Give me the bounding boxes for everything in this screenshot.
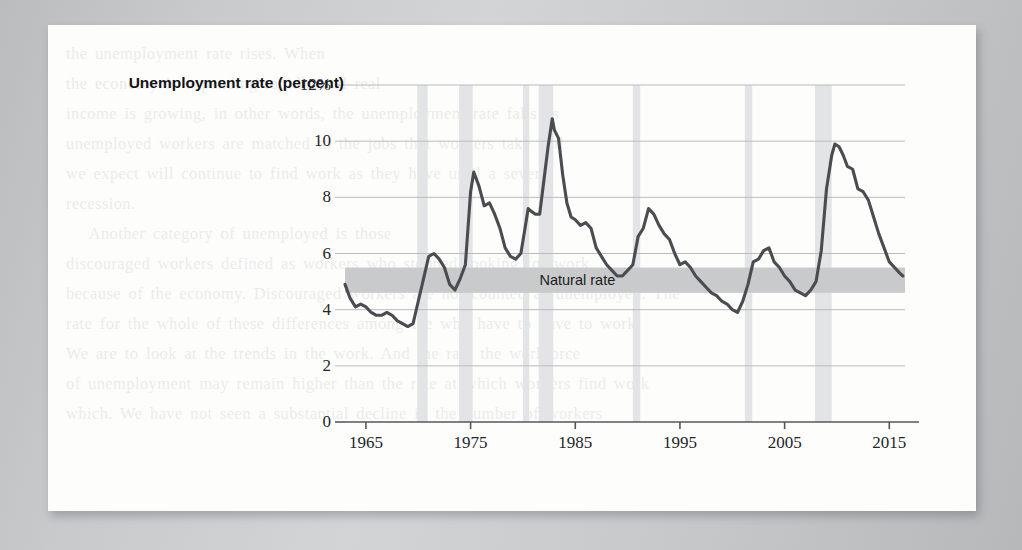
x-tick-label: 2005 <box>750 433 820 453</box>
x-tick-label: 2015 <box>854 433 924 453</box>
x-tick-label: 1975 <box>436 433 506 453</box>
y-tick-label: 10 <box>283 131 331 151</box>
x-tick-label: 1985 <box>540 433 610 453</box>
book-page-sheet: the unemployment rate rises. When the ec… <box>48 25 976 511</box>
y-tick-label: 8 <box>283 187 331 207</box>
x-tick-label: 1965 <box>331 433 401 453</box>
x-tick-label: 1995 <box>645 433 715 453</box>
y-tick-label: 6 <box>283 244 331 264</box>
y-tick-label: 2 <box>283 356 331 376</box>
unemployment-rate-chart: Unemployment rate (percent) 024681012% 1… <box>48 25 976 511</box>
y-tick-label: 4 <box>283 300 331 320</box>
chart-plot-svg <box>48 25 976 511</box>
y-tick-label: 0 <box>283 412 331 432</box>
y-tick-label: 12% <box>283 75 331 95</box>
natural-rate-label: Natural rate <box>539 272 615 288</box>
